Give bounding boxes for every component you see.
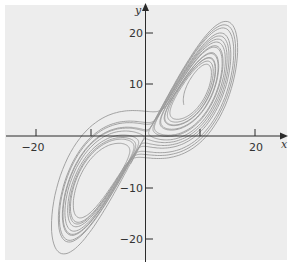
y-tick-label-20: 20 [129, 27, 143, 40]
x-axis: −20 20 x [6, 129, 288, 154]
y-tick-label-10: 10 [129, 78, 143, 91]
x-tick-label-pos20: 20 [249, 141, 263, 154]
y-tick-label-neg10: −10 [120, 182, 143, 195]
chart: −20 20 x 20 10 −10 −20 y [0, 0, 292, 264]
y-axis-label: y [134, 4, 142, 17]
x-axis-label: x [281, 138, 288, 151]
x-tick-label-neg20: −20 [21, 141, 44, 154]
y-axis-arrow-icon [142, 3, 149, 11]
y-tick-label-neg20: −20 [120, 233, 143, 246]
trajectory-layer [52, 21, 238, 254]
lorenz-trajectory-curve [52, 21, 238, 254]
